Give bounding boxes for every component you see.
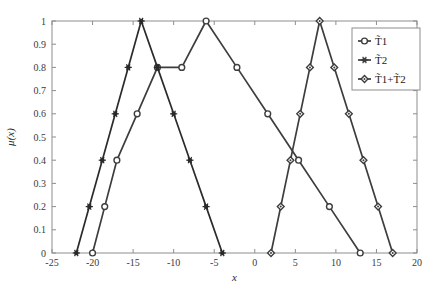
marker-circle xyxy=(102,204,108,210)
marker-diamond-core xyxy=(299,113,301,115)
marker-diamond-core xyxy=(362,159,364,161)
marker-diamond-core xyxy=(392,252,394,254)
y-tick-label: 0.3 xyxy=(34,178,47,189)
y-tick-label: 0.5 xyxy=(34,132,47,143)
y-tick-label: 0.1 xyxy=(34,224,47,235)
marker-diamond-core xyxy=(348,113,350,115)
marker-diamond-core xyxy=(333,66,335,68)
x-tick-label: 20 xyxy=(412,257,422,268)
series-line xyxy=(93,21,361,253)
series-1 xyxy=(73,18,226,256)
x-tick-label: -10 xyxy=(167,257,180,268)
series-0 xyxy=(90,18,363,256)
marker-diamond-core xyxy=(377,206,379,208)
y-tick-label: 0.6 xyxy=(34,108,47,119)
x-tick-label: 0 xyxy=(252,257,257,268)
marker-circle xyxy=(362,38,368,44)
x-tick-label: -20 xyxy=(86,257,99,268)
marker-circle xyxy=(114,157,120,163)
y-tick-label: 0 xyxy=(41,248,46,259)
marker-circle xyxy=(134,111,140,117)
legend-label: T̃1+T̃2 xyxy=(375,73,406,85)
marker-diamond-core xyxy=(319,20,321,22)
y-tick-label: 0.7 xyxy=(34,85,47,96)
legend-label: T̃1 xyxy=(375,35,387,47)
x-axis-title: x xyxy=(231,271,237,283)
x-tick-label: 10 xyxy=(331,257,341,268)
marker-circle xyxy=(357,250,363,256)
x-tick-label: -5 xyxy=(210,257,218,268)
x-tick-label: 5 xyxy=(293,257,298,268)
series-line xyxy=(76,21,222,253)
marker-circle xyxy=(179,65,185,71)
marker-diamond-core xyxy=(270,252,272,254)
marker-circle xyxy=(265,111,271,117)
marker-circle xyxy=(296,157,302,163)
marker-circle xyxy=(327,204,333,210)
marker-circle xyxy=(203,18,209,24)
y-tick-label: 0.8 xyxy=(34,62,47,73)
y-tick-label: 0.4 xyxy=(34,155,47,166)
figure-container: -25-20-15-10-50510152000.10.20.30.40.50.… xyxy=(0,0,437,296)
x-tick-label: -25 xyxy=(45,257,58,268)
y-axis-title: μ(x) xyxy=(4,128,17,147)
y-tick-label: 1 xyxy=(41,16,46,27)
marker-diamond-core xyxy=(309,66,311,68)
y-tick-label: 0.9 xyxy=(34,39,47,50)
x-tick-label: -15 xyxy=(126,257,139,268)
legend: T̃1T̃2T̃1+T̃2 xyxy=(352,28,420,90)
marker-diamond-core xyxy=(280,206,282,208)
legend-label: T̃2 xyxy=(375,54,387,66)
marker-circle xyxy=(90,250,96,256)
chart-canvas: -25-20-15-10-50510152000.10.20.30.40.50.… xyxy=(0,0,437,296)
marker-circle xyxy=(234,65,240,71)
x-tick-label: 15 xyxy=(371,257,381,268)
marker-diamond-core xyxy=(289,159,291,161)
y-tick-label: 0.2 xyxy=(34,201,47,212)
marker-diamond-core xyxy=(364,78,366,80)
